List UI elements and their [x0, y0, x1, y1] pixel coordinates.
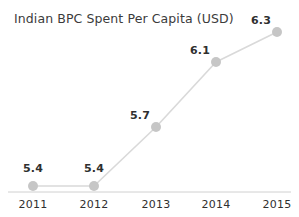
series-line: [33, 32, 277, 186]
x-axis-tick-label: 2011: [19, 198, 48, 211]
data-point-marker[interactable]: [28, 181, 38, 191]
x-axis-tick-label: 2012: [80, 198, 109, 211]
data-point-marker[interactable]: [89, 181, 99, 191]
data-point-marker[interactable]: [272, 27, 282, 37]
data-point-value-label: 5.4: [84, 162, 104, 175]
data-point-marker[interactable]: [211, 57, 221, 67]
x-axis-tick-label: 2015: [263, 198, 292, 211]
series-marker-group: [28, 27, 282, 191]
x-axis-tick-label: 2014: [202, 198, 231, 211]
plot-area: 5.45.45.76.16.3 20112012201320142015: [0, 0, 299, 217]
data-point-value-label: 6.1: [190, 44, 210, 57]
chart-card: Indian BPC Spent Per Capita (USD) 5.45.4…: [0, 0, 299, 217]
data-point-value-label: 6.3: [251, 14, 271, 27]
series-line-group: [33, 32, 277, 186]
data-point-value-label: 5.4: [23, 162, 43, 175]
data-point-marker[interactable]: [151, 122, 161, 132]
x-axis-tick-label: 2013: [142, 198, 171, 211]
data-point-value-label: 5.7: [130, 109, 150, 122]
